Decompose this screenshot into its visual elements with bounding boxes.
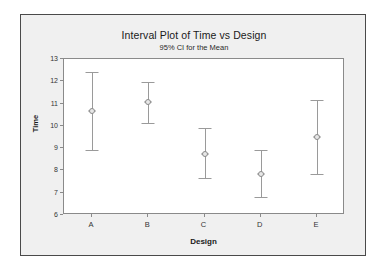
x-tick-mark — [147, 214, 148, 217]
x-tick-mark — [91, 214, 92, 217]
mean-marker — [145, 99, 151, 105]
x-tick-label: D — [250, 220, 270, 229]
ci-lower-cap — [86, 150, 99, 151]
x-tick-label: E — [306, 220, 326, 229]
y-tick-label: 13 — [38, 55, 58, 62]
y-tick-label: 7 — [38, 188, 58, 195]
y-tick-label: 12 — [38, 77, 58, 84]
ci-upper-cap — [86, 72, 99, 73]
x-tick-mark — [316, 214, 317, 217]
y-tick-label: 9 — [38, 144, 58, 151]
chart-subtitle: 95% CI for the Mean — [21, 43, 367, 52]
ci-lower-cap — [254, 197, 267, 198]
x-tick-label: B — [137, 220, 157, 229]
mean-marker — [258, 171, 264, 177]
ci-upper-cap — [310, 100, 323, 101]
chart-title: Interval Plot of Time vs Design — [21, 29, 367, 41]
y-tick-label: 11 — [38, 99, 58, 106]
plot-area — [63, 58, 344, 214]
y-tick-label: 6 — [38, 211, 58, 218]
x-tick-mark — [260, 214, 261, 217]
mean-marker — [89, 108, 95, 114]
ci-upper-cap — [254, 150, 267, 151]
x-tick-label: A — [81, 220, 101, 229]
y-tick-label: 8 — [38, 166, 58, 173]
mean-marker — [314, 134, 320, 140]
interval-plot-figure: Interval Plot of Time vs Design 95% CI f… — [20, 14, 366, 256]
ci-upper-cap — [198, 128, 211, 129]
x-axis-title: Design — [63, 237, 344, 246]
x-tick-label: C — [194, 220, 214, 229]
ci-lower-cap — [142, 123, 155, 124]
x-tick-mark — [204, 214, 205, 217]
y-tick-label: 10 — [38, 121, 58, 128]
ci-lower-cap — [198, 178, 211, 179]
mean-marker — [202, 151, 208, 157]
y-tick-mark — [60, 214, 63, 215]
ci-upper-cap — [142, 82, 155, 83]
ci-lower-cap — [310, 174, 323, 175]
